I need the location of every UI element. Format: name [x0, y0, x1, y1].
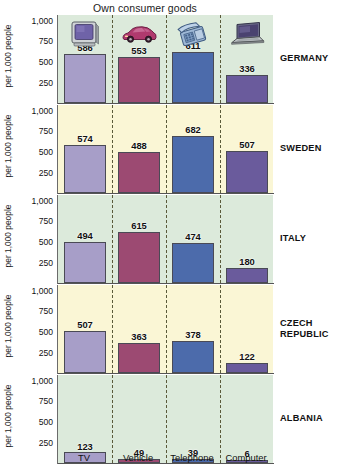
y-axis-tick-label: 1,000 — [31, 377, 53, 386]
y-axis-tick-label: 250 — [39, 79, 53, 88]
bar-slot: 180 — [220, 195, 274, 283]
country-label-line: SWEDEN — [280, 143, 354, 154]
country-label-line: ITALY — [280, 233, 354, 244]
bar-vehicle[interactable] — [118, 232, 160, 283]
bar-slot: 378 — [166, 285, 220, 373]
y-axis-title-text: per 1,000 people — [3, 198, 13, 274]
chart-title: Own consumer goods — [0, 2, 290, 14]
y-axis-tick-label: 750 — [39, 37, 53, 46]
tv-icon — [58, 17, 112, 51]
y-axis-title: per 1,000 people — [0, 195, 16, 284]
chart-panels: per 1,000 people1,000750500250586 553 61… — [0, 15, 354, 455]
bar-computer[interactable] — [226, 363, 268, 373]
bar-group: 507363378122 — [58, 285, 273, 373]
bar-computer[interactable] — [226, 75, 268, 103]
country-label: ITALY — [280, 233, 354, 244]
bar-slot: 122 — [220, 285, 274, 373]
bar-value-label: 122 — [220, 352, 274, 361]
y-axis-tick-label: 500 — [39, 148, 53, 157]
country-panel: per 1,000 people1,0007505002505744886825… — [0, 105, 354, 194]
y-axis-tick-label: 500 — [39, 58, 53, 67]
bar-vehicle[interactable] — [118, 343, 160, 373]
country-label: ALBANIA — [280, 413, 354, 424]
y-axis-title: per 1,000 people — [0, 15, 16, 104]
bar-tv[interactable] — [64, 54, 106, 103]
bar-value-label: 615 — [112, 221, 166, 230]
bar-vehicle[interactable] — [118, 57, 160, 103]
x-axis-baseline — [58, 373, 274, 374]
y-axis-tick-label: 1,000 — [31, 197, 53, 206]
y-axis-ticks: 1,000750500250 — [16, 195, 55, 284]
bar-value-label: 378 — [166, 330, 220, 339]
plot-area: 12349396 — [57, 375, 273, 464]
bar-group: 494615474180 — [58, 195, 273, 283]
bar-slot: 615 — [112, 195, 166, 283]
bar-slot: 488 — [112, 105, 166, 193]
plot-area: 494615474180 — [57, 195, 273, 284]
y-axis-tick-label: 500 — [39, 418, 53, 427]
plot-area: 586 553 611 — [57, 15, 273, 104]
category-label-vehicle: Vehicle — [108, 452, 168, 463]
y-axis-tick-label: 750 — [39, 397, 53, 406]
country-label: CZECHREPUBLIC — [280, 318, 354, 340]
bar-slot: 682 — [166, 105, 220, 193]
bar-telephone[interactable] — [172, 243, 214, 282]
bar-vehicle[interactable] — [118, 152, 160, 192]
bar-value-label: 488 — [112, 141, 166, 150]
bar-slot: 507 — [58, 285, 112, 373]
country-label-line: ALBANIA — [280, 413, 354, 424]
y-axis-ticks: 1,000750500250 — [16, 15, 55, 104]
y-axis-tick-label: 250 — [39, 169, 53, 178]
country-label: GERMANY — [280, 53, 354, 64]
bar-slot: 611 — [166, 15, 220, 103]
country-panel: per 1,000 people1,000750500250586 553 61… — [0, 15, 354, 104]
bar-value-label: 474 — [166, 232, 220, 241]
y-axis-tick-label: 1,000 — [31, 17, 53, 26]
y-axis-tick-label: 750 — [39, 307, 53, 316]
bar-slot: 586 — [58, 15, 112, 103]
y-axis-tick-label: 250 — [39, 259, 53, 268]
bar-tv[interactable] — [64, 145, 106, 193]
country-label-line: CZECH — [280, 318, 354, 329]
country-panel: per 1,000 people1,00075050025012349396AL… — [0, 375, 354, 464]
bar-slot: 6 — [220, 375, 274, 463]
bar-slot: 49 — [112, 375, 166, 463]
bar-telephone[interactable] — [172, 341, 214, 372]
country-panel: per 1,000 people1,0007505002504946154741… — [0, 195, 354, 284]
bar-tv[interactable] — [64, 331, 106, 373]
bar-value-label: 123 — [58, 442, 112, 451]
y-axis-ticks: 1,000750500250 — [16, 285, 55, 374]
y-axis-tick-label: 250 — [39, 439, 53, 448]
plot-area: 574488682507 — [57, 105, 273, 194]
bar-slot: 474 — [166, 195, 220, 283]
bar-value-label: 507 — [58, 320, 112, 329]
category-axis: TVVehicleTelephoneComputer — [57, 452, 273, 468]
bar-value-label: 574 — [58, 134, 112, 143]
bar-computer[interactable] — [226, 151, 268, 193]
bar-slot: 574 — [58, 105, 112, 193]
category-label-tv: TV — [54, 452, 114, 463]
bar-slot: 39 — [166, 375, 220, 463]
y-axis-title: per 1,000 people — [0, 105, 16, 194]
bar-slot: 363 — [112, 285, 166, 373]
y-axis-title-text: per 1,000 people — [3, 18, 13, 94]
country-label: SWEDEN — [280, 143, 354, 154]
bar-value-label: 507 — [220, 140, 274, 149]
bar-value-label: 682 — [166, 125, 220, 134]
x-axis-baseline — [58, 103, 274, 104]
y-axis-tick-label: 500 — [39, 238, 53, 247]
y-axis-title-text: per 1,000 people — [3, 288, 13, 364]
bar-tv[interactable] — [64, 242, 106, 283]
bar-slot: 553 — [112, 15, 166, 103]
y-axis-title-text: per 1,000 people — [3, 378, 13, 454]
x-axis-baseline — [58, 193, 274, 194]
bar-computer[interactable] — [226, 268, 268, 283]
bar-telephone[interactable] — [172, 52, 214, 103]
bar-telephone[interactable] — [172, 136, 214, 192]
bar-group: 574488682507 — [58, 105, 273, 193]
category-label-telephone: Telephone — [162, 452, 222, 463]
bar-value-label: 336 — [220, 64, 274, 73]
bar-slot: 336 — [220, 15, 274, 103]
y-axis-tick-label: 500 — [39, 328, 53, 337]
bar-slot: 507 — [220, 105, 274, 193]
